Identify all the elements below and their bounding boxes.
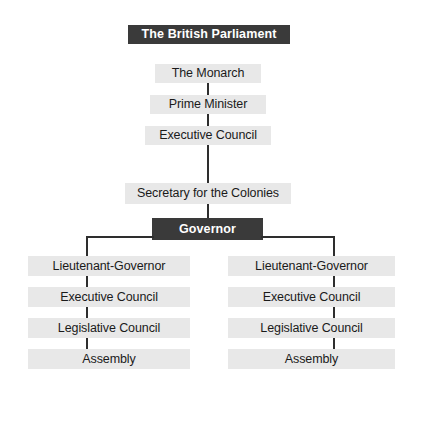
connector-governor-right-arm [261, 236, 335, 238]
node-right-lieutenant-governor: Lieutenant-Governor [228, 256, 395, 276]
node-secretary-for-the-colonies: Secretary for the Colonies [125, 183, 291, 204]
node-right-assembly: Assembly [228, 349, 395, 369]
node-monarch: The Monarch [155, 64, 261, 83]
connector-prime-minister-to-executive-council [207, 114, 209, 126]
chart-title-banner: The British Parliament [128, 25, 290, 44]
connector-governor-left-drop [86, 236, 88, 256]
node-executive-council-imperial: Executive Council [145, 126, 271, 145]
node-right-executive-council: Executive Council [228, 287, 395, 307]
connector-right-legislative-council-to-assembly [333, 338, 335, 349]
connector-executive-council-to-secretary [207, 145, 209, 183]
node-governor: Governor [152, 218, 263, 240]
node-left-legislative-council: Legislative Council [28, 318, 190, 338]
org-chart: The British Parliament The Monarch Prime… [0, 0, 431, 426]
connector-left-legislative-council-to-assembly [86, 338, 88, 349]
connector-monarch-to-prime-minister [207, 83, 209, 95]
connector-secretary-to-governor [207, 204, 209, 218]
connector-right-executive-council-to-legislative-council [333, 307, 335, 318]
connector-governor-right-drop [333, 236, 335, 256]
connector-left-executive-council-to-legislative-council [86, 307, 88, 318]
node-left-assembly: Assembly [28, 349, 190, 369]
connector-left-lieutenant-governor-to-executive-council [86, 276, 88, 287]
node-left-lieutenant-governor: Lieutenant-Governor [28, 256, 190, 276]
node-right-legislative-council: Legislative Council [228, 318, 395, 338]
connector-governor-left-arm [86, 236, 154, 238]
node-prime-minister: Prime Minister [150, 95, 266, 114]
connector-right-lieutenant-governor-to-executive-council [333, 276, 335, 287]
node-left-executive-council: Executive Council [28, 287, 190, 307]
